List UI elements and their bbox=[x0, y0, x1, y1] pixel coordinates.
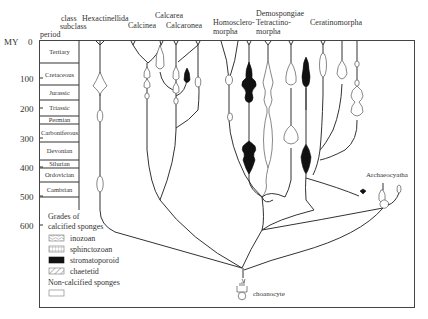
label-calcarea: Calcarea bbox=[155, 11, 183, 20]
label-calcinea: Calcinea bbox=[128, 21, 156, 30]
sphinctozoan-swatch bbox=[49, 246, 64, 252]
legend-title-1: Grades of bbox=[48, 212, 80, 221]
axis-label: MY bbox=[4, 37, 19, 47]
period-cretaceous: Cretaceous bbox=[45, 71, 74, 78]
period-carboniferous: Carboniferous bbox=[41, 129, 79, 136]
tick-300: 300 bbox=[20, 134, 34, 144]
label-hexactinellida: Hexactinellida bbox=[82, 14, 129, 23]
label-homoscleromorpha-1: Homosclero- bbox=[213, 18, 255, 27]
tick-400: 400 bbox=[20, 163, 34, 173]
legend: Grades of calcified sponges inozoan sphi… bbox=[48, 212, 120, 296]
legend-title-2: calcified sponges bbox=[48, 222, 103, 231]
period-permian: Permian bbox=[49, 116, 71, 123]
label-archaeocyatha: Archaeocyatha bbox=[366, 171, 409, 179]
period-cambrian: Cambrian bbox=[47, 186, 73, 193]
legend-chaetetid: chaetetid bbox=[70, 267, 99, 276]
sponge-phylogeny-diagram: MY 0 100 200 300 400 500 600 class subcl… bbox=[0, 0, 428, 319]
period-header: period bbox=[40, 30, 60, 39]
tick-600: 600 bbox=[20, 221, 34, 231]
tick-0: 0 bbox=[28, 37, 33, 47]
legend-stromatoporoid: stromatoporoid bbox=[70, 256, 119, 265]
period-tertiary: Tertiary bbox=[49, 48, 70, 55]
inozoan-swatch bbox=[49, 235, 64, 241]
subclass-header: subclass bbox=[60, 22, 87, 31]
label-homoscleromorpha-2: morpha bbox=[213, 27, 238, 36]
period-triassic: Triassic bbox=[49, 104, 69, 111]
label-ceratinomorpha: Ceratinomorpha bbox=[310, 18, 362, 27]
period-devonian: Devonian bbox=[47, 147, 73, 154]
stromatoporoid-swatch bbox=[49, 257, 64, 263]
label-tetractinomorpha-1: Tetractino- bbox=[256, 18, 291, 27]
label-choanocyte: choanocyte bbox=[253, 290, 285, 298]
label-calcaronea: Calcaronea bbox=[166, 21, 202, 30]
label-demospongiae: Demospongiae bbox=[256, 9, 304, 18]
legend-sphinctozoan: sphinctozoan bbox=[70, 245, 112, 254]
tick-200: 200 bbox=[20, 104, 34, 114]
period-silurian: Silurian bbox=[49, 160, 70, 167]
time-axis: MY 0 100 200 300 400 500 600 bbox=[4, 37, 43, 231]
label-tetractinomorpha-2: morpha bbox=[256, 27, 281, 36]
tick-100: 100 bbox=[20, 74, 34, 84]
period-ordovician: Ordovician bbox=[45, 171, 75, 178]
phylogeny-tree bbox=[93, 41, 401, 300]
tick-500: 500 bbox=[20, 192, 34, 202]
legend-inozoan: inozoan bbox=[70, 234, 95, 243]
period-column: Tertiary Cretaceous Jurassic Triassic Pe… bbox=[40, 40, 79, 210]
legend-non-calcified: Non-calcified sponges bbox=[48, 278, 120, 287]
non-calcified-swatch bbox=[49, 290, 64, 296]
chaetetid-swatch bbox=[49, 268, 64, 274]
period-jurassic: Jurassic bbox=[49, 89, 70, 96]
